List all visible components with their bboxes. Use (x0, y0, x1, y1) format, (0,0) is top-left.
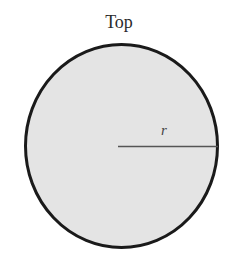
radius-label: r (161, 122, 167, 139)
circle-diagram (0, 0, 236, 268)
